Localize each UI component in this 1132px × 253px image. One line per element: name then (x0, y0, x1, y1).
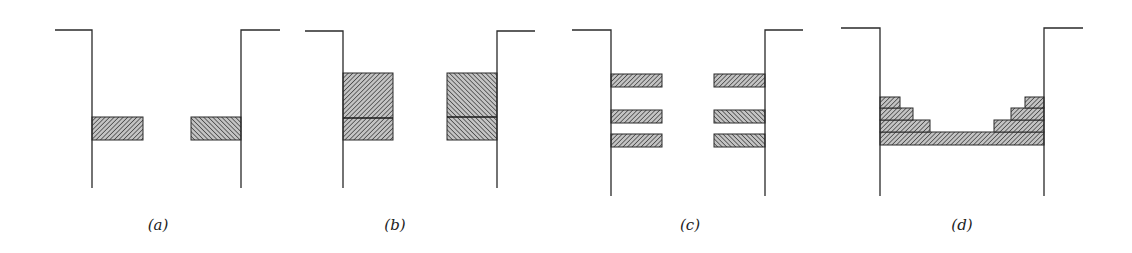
left-wall (572, 30, 611, 196)
panel-d: (d) (841, 28, 1083, 234)
hatched-block-right (714, 134, 765, 147)
hatched-block-left (880, 97, 900, 108)
hatched-block-right (714, 110, 765, 123)
hatched-block-left (611, 74, 662, 87)
panel-c: (c) (572, 30, 803, 234)
hatched-block-left (880, 120, 930, 132)
hatched-block-left (611, 134, 662, 147)
figure-canvas: (a)(b)(c)(d) (0, 0, 1132, 253)
hatched-block-right (1025, 97, 1044, 108)
hatched-block-left (880, 108, 913, 120)
hatched-block-right (714, 74, 765, 87)
panel-label-a: (a) (148, 216, 169, 234)
hatched-block-right (447, 73, 497, 140)
panel-label-b: (b) (384, 216, 405, 234)
hatched-block-both (880, 132, 1044, 145)
hatched-block-right (191, 117, 241, 140)
panel-b: (b) (305, 31, 535, 234)
hatched-block-right (1011, 108, 1044, 120)
right-wall (1044, 28, 1083, 196)
panel-label-c: (c) (680, 216, 700, 234)
left-wall (841, 28, 880, 196)
panel-a: (a) (55, 30, 280, 234)
left-wall (55, 30, 92, 188)
left-wall (305, 31, 343, 188)
panels-layer: (a)(b)(c)(d) (55, 28, 1083, 234)
right-wall (765, 30, 803, 196)
hatched-block-left (343, 73, 393, 140)
right-wall (241, 30, 280, 188)
panel-label-d: (d) (951, 216, 972, 234)
hatched-block-right (994, 120, 1044, 132)
hatched-block-left (92, 117, 143, 140)
hatched-block-left (611, 110, 662, 123)
right-wall (497, 31, 535, 188)
